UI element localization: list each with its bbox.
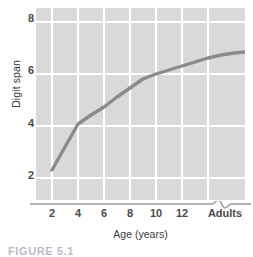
y-tick-label-6: 6 [18, 65, 34, 76]
x-tick-label-6: 6 [101, 208, 107, 219]
plot-area [36, 8, 245, 200]
vertical-gridlines [52, 8, 208, 200]
horizontal-gridlines [36, 22, 245, 178]
x-axis-title: Age (years) [36, 228, 245, 240]
figure-caption: FIGURE 5.1 [8, 245, 74, 257]
y-tick-label-4: 4 [18, 118, 34, 129]
x-tick-label-adults: Adults [208, 208, 242, 219]
y-tick-label-2: 2 [18, 170, 34, 181]
data-line-digit-span [52, 52, 244, 170]
x-tick-label-12: 12 [176, 208, 188, 219]
plot-canvas [36, 8, 245, 200]
x-tick-label-4: 4 [75, 208, 81, 219]
y-tick-label-8: 8 [18, 13, 34, 24]
x-tick-label-8: 8 [127, 208, 133, 219]
x-tick-label-10: 10 [150, 208, 162, 219]
x-tick-label-2: 2 [49, 208, 55, 219]
x-axis-tick-labels: 2 4 6 8 10 12 Adults [0, 208, 253, 224]
